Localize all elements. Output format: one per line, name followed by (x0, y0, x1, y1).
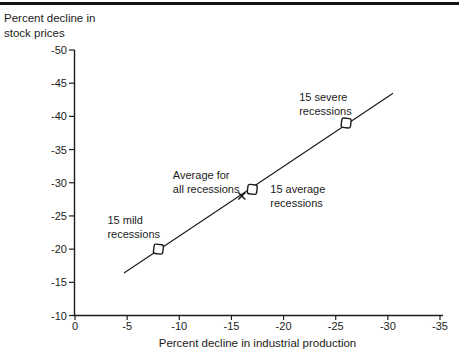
x-tick-label: 0 (72, 320, 78, 332)
x-tick-label: -35 (432, 320, 448, 332)
point-label: 15 mildrecessions (107, 214, 160, 240)
chart-page: Percent decline in stock prices 0-5-10-1… (0, 0, 459, 360)
point-label: Average forall recessions (173, 169, 240, 195)
y-tick-label: -45 (51, 77, 67, 89)
data-point-square-marker (341, 118, 351, 128)
x-tick-label: -20 (276, 320, 292, 332)
y-tick-label: -15 (51, 276, 67, 288)
x-tick-label: -25 (328, 320, 344, 332)
y-tick-label: -10 (51, 310, 67, 322)
y-tick-label: -25 (51, 210, 67, 222)
point-label: 15 severerecessions (299, 91, 352, 117)
x-tick-label: -30 (380, 320, 396, 332)
x-tick-label: -10 (171, 320, 187, 332)
y-tick-label: -35 (51, 144, 67, 156)
scatter-plot: 0-5-10-15-20-25-30-35-50-45-40-35-30-25-… (0, 0, 459, 360)
y-tick-label: -50 (51, 44, 67, 56)
y-tick-label: -40 (51, 110, 67, 122)
x-tick-label: -5 (122, 320, 132, 332)
y-tick-label: -20 (51, 243, 67, 255)
x-axis-title: Percent decline in industrial production (75, 337, 440, 349)
y-tick-label: -30 (51, 177, 67, 189)
point-label: 15 averagerecessions (270, 183, 325, 209)
trend-line (124, 93, 393, 273)
data-point-square-marker (153, 244, 163, 254)
x-tick-label: -15 (223, 320, 239, 332)
data-point-square-marker (247, 184, 257, 194)
